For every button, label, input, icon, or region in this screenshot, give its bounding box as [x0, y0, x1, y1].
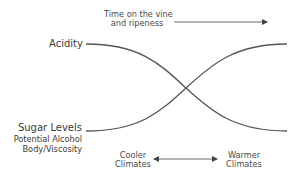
potential-alcohol-label: Potential Alcohol: [10, 135, 82, 144]
sugar-label-block: Sugar Levels Potential Alcohol Body/Visc…: [10, 122, 82, 154]
ripening-diagram: Time on the vine and ripeness Acidity Su…: [0, 0, 303, 180]
warmer-climates-label: Warmer Climates: [222, 151, 266, 170]
time-on-vine-label: Time on the vine and ripeness: [104, 10, 170, 29]
time-label-line2: and ripeness: [104, 19, 170, 28]
acidity-label: Acidity: [49, 38, 83, 50]
cooler-climates-label: Cooler Climates: [113, 151, 153, 170]
cooler-line2: Climates: [113, 160, 153, 169]
body-viscosity-label: Body/Viscosity: [10, 145, 82, 154]
warmer-line2: Climates: [222, 160, 266, 169]
sugar-levels-label: Sugar Levels: [10, 122, 82, 134]
sugar-curve: [86, 44, 287, 131]
